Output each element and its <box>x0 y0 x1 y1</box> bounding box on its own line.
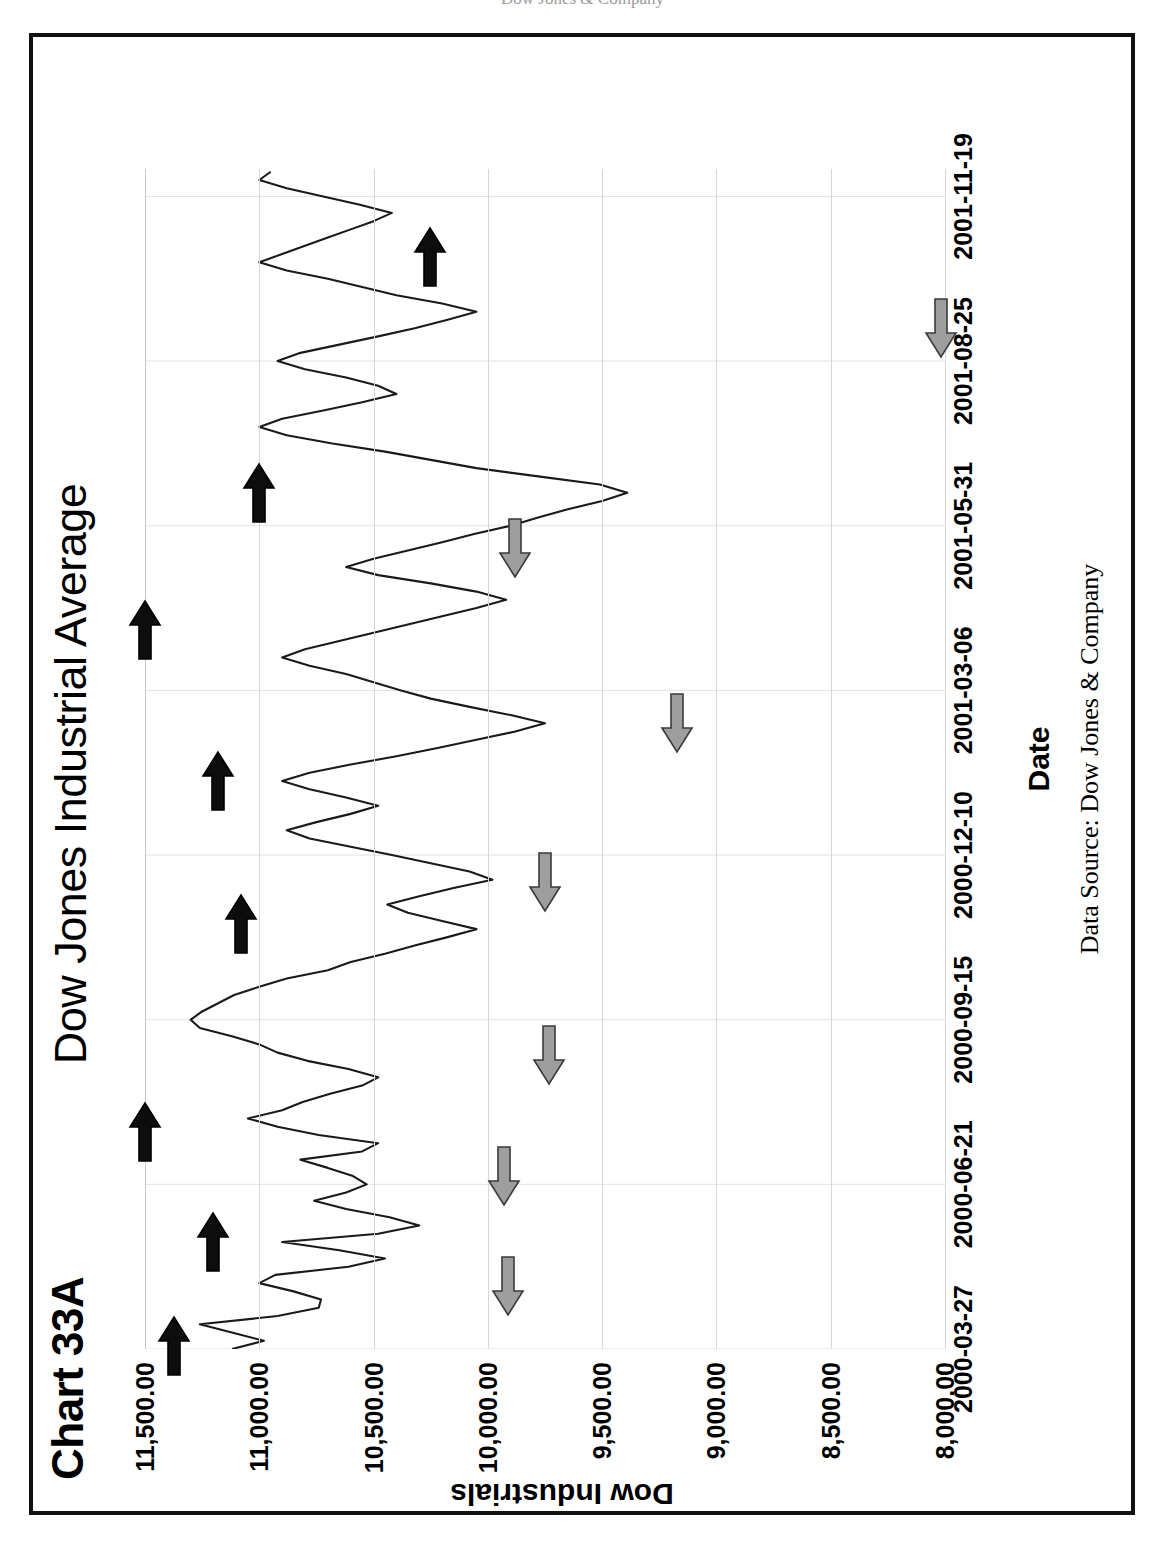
peak-arrow-icon <box>196 1211 230 1273</box>
x-tick-label: 2001-11-19 <box>949 133 978 260</box>
y-tick-label: 9,000.00 <box>702 1362 731 1459</box>
page-border-frame: Chart 33A Dow Jones Industrial Average 1… <box>29 33 1135 1515</box>
gridline-10500 <box>374 169 375 1349</box>
peak-arrow-icon <box>128 599 162 661</box>
peak-arrow-icon <box>224 893 258 955</box>
series-line-dow-industrials <box>191 172 628 1349</box>
trough-arrow-icon <box>532 1024 566 1086</box>
gridline-8500 <box>831 169 832 1349</box>
trough-arrow-icon <box>924 297 958 359</box>
gridline-11000 <box>259 169 260 1349</box>
x-tick-label: 2001-05-31 <box>949 462 978 590</box>
trough-arrow-icon <box>498 517 532 579</box>
plot-area <box>145 169 945 1349</box>
peak-arrow-icon <box>201 750 235 812</box>
trough-arrow-icon <box>660 692 694 754</box>
trough-arrow-icon <box>491 1255 525 1317</box>
peak-arrow-icon <box>242 462 276 524</box>
x-tick-label: 2000-09-15 <box>949 956 978 1084</box>
y-tick-label: 10,000.00 <box>473 1362 502 1473</box>
y-tick-label: 8,500.00 <box>816 1362 845 1459</box>
peak-arrow-icon <box>157 1315 191 1377</box>
x-axis-title: Date <box>1022 169 1056 1349</box>
chart-stage: Chart 33A Dow Jones Industrial Average 1… <box>37 54 1127 1494</box>
gridline-9500 <box>602 169 603 1349</box>
y-tick-label: 11,000.00 <box>245 1362 274 1472</box>
y-tick-label: 11,500.00 <box>131 1362 160 1472</box>
y-axis-title: Dow Industrials <box>262 1477 862 1511</box>
data-source-note: Data Source: Dow Jones & Company <box>1075 169 1105 1349</box>
x-tick-label: 2001-03-06 <box>949 626 978 754</box>
x-tick-label: 2000-06-21 <box>949 1120 978 1248</box>
clipped-header-strip: Dow Jones & Company <box>0 0 1165 22</box>
peak-arrow-icon <box>128 1101 162 1163</box>
y-axis-tick-labels: 11,500.0011,000.0010,500.0010,000.009,50… <box>145 1354 945 1494</box>
x-tick-label: 2000-03-27 <box>949 1285 978 1413</box>
chart-title: Dow Jones Industrial Average <box>45 54 97 1494</box>
rotated-chart-wrapper: Chart 33A Dow Jones Industrial Average 1… <box>33 37 1131 1511</box>
dow-industrials-line-series <box>145 169 945 1349</box>
trough-arrow-icon <box>487 1145 521 1207</box>
trough-arrow-icon <box>528 852 562 914</box>
peak-arrow-icon <box>413 226 447 288</box>
clipped-header-text: Dow Jones & Company <box>501 0 664 9</box>
gridline-11500 <box>145 169 146 1349</box>
x-tick-label: 2000-12-10 <box>949 791 978 919</box>
y-tick-label: 9,500.00 <box>588 1362 617 1459</box>
y-tick-label: 10,500.00 <box>359 1362 388 1473</box>
gridline-9000 <box>716 169 717 1349</box>
